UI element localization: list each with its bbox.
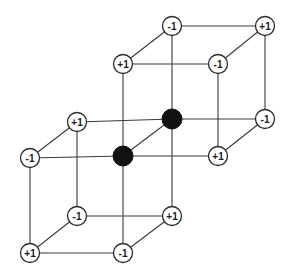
labeled-node: +1 bbox=[256, 17, 275, 36]
labeled-node: +1 bbox=[114, 55, 133, 74]
node-label: +1 bbox=[212, 151, 224, 162]
labeled-node: +1 bbox=[209, 147, 228, 166]
edge-l_btl-c_b bbox=[77, 119, 172, 122]
double-cube-diagram: -1+1+1-1-1+1+1-1-1+1+1-1 bbox=[0, 0, 290, 278]
labeled-node: -1 bbox=[21, 149, 40, 168]
node-label: +1 bbox=[259, 21, 271, 32]
filled-node-dot bbox=[162, 109, 182, 129]
node-label: +1 bbox=[166, 211, 178, 222]
labeled-node: +1 bbox=[68, 113, 87, 132]
node-label: -1 bbox=[26, 153, 35, 164]
node-label: -1 bbox=[73, 211, 82, 222]
labeled-node: -1 bbox=[209, 55, 228, 74]
labeled-node: -1 bbox=[68, 207, 87, 226]
labeled-node: +1 bbox=[163, 207, 182, 226]
filled-node bbox=[162, 109, 182, 129]
node-label: -1 bbox=[168, 21, 177, 32]
edges-layer bbox=[30, 26, 265, 253]
filled-node-dot bbox=[113, 146, 133, 166]
labeled-node: +1 bbox=[21, 244, 40, 263]
filled-node bbox=[113, 146, 133, 166]
node-label: -1 bbox=[119, 248, 128, 259]
nodes-layer: -1+1+1-1-1+1+1-1-1+1+1-1 bbox=[21, 17, 275, 263]
node-label: +1 bbox=[117, 59, 129, 70]
labeled-node: -1 bbox=[114, 244, 133, 263]
node-label: +1 bbox=[71, 117, 83, 128]
node-label: +1 bbox=[24, 248, 36, 259]
node-label: -1 bbox=[261, 114, 270, 125]
labeled-node: -1 bbox=[256, 110, 275, 129]
node-label: -1 bbox=[214, 59, 223, 70]
labeled-node: -1 bbox=[163, 17, 182, 36]
